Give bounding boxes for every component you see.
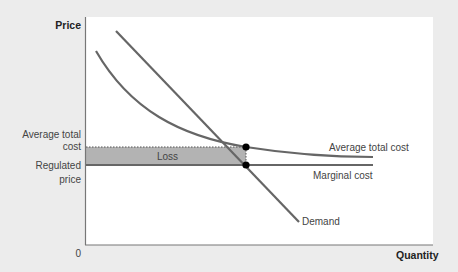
atc-point bbox=[242, 143, 249, 150]
regulated-price-label-1: Regulated bbox=[35, 160, 81, 172]
x-axis-label: Quantity bbox=[396, 249, 439, 261]
atc-curve-label: Average total cost bbox=[329, 142, 409, 154]
atc-axis-label-2: cost bbox=[63, 141, 81, 153]
loss-label: Loss bbox=[157, 151, 178, 163]
regulated-price-label-2: price bbox=[59, 174, 81, 186]
demand-line bbox=[116, 31, 299, 222]
mc-curve-label: Marginal cost bbox=[313, 170, 372, 182]
origin-label: 0 bbox=[75, 248, 81, 260]
y-axis-label: Price bbox=[55, 19, 81, 31]
demand-curve-label: Demand bbox=[302, 216, 340, 228]
mc-demand-point bbox=[242, 161, 249, 168]
atc-axis-label-1: Average total bbox=[22, 129, 81, 141]
